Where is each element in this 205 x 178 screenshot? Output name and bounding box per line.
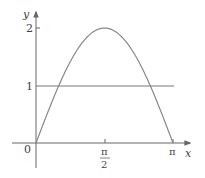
x-tick-pi-half-den: 2 xyxy=(101,159,107,170)
x-tick-pi-half-num: π xyxy=(101,146,108,157)
x-axis-label: x xyxy=(185,147,192,160)
x-tick-pi: π xyxy=(169,146,176,157)
y-axis-label: y xyxy=(22,8,30,21)
y-tick-2: 2 xyxy=(26,22,33,35)
chart: 0 y 2 1 π 2 π x xyxy=(0,0,205,178)
y-tick-1: 1 xyxy=(26,80,33,93)
origin-label: 0 xyxy=(24,143,31,156)
